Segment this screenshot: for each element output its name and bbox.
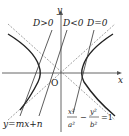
minus-sign: − xyxy=(80,113,87,122)
x-axis-label: x xyxy=(118,75,123,85)
origin-label: O xyxy=(51,78,58,88)
hyperbola-right-branch xyxy=(82,34,115,116)
y-axis-label: y xyxy=(56,5,63,15)
label-d-equal-0: D=0 xyxy=(86,18,108,28)
equals-one: =1 xyxy=(101,113,113,122)
diagram-canvas: y x O D>0 D<0 D=0 y=mx+n x² a² − y² b² =… xyxy=(0,0,129,136)
line-equation: y=mx+n xyxy=(2,119,43,129)
frac1-numerator: x² xyxy=(68,108,75,116)
frac2-denominator: b² xyxy=(90,121,97,129)
line-d-equal-0 xyxy=(73,30,94,114)
label-d-greater-0: D>0 xyxy=(32,18,54,28)
frac2-numerator: y² xyxy=(89,108,97,116)
label-d-less-0: D<0 xyxy=(62,18,84,28)
hyperbola-left-branch xyxy=(8,34,40,110)
hyperbola-line-diagram: y x O D>0 D<0 D=0 y=mx+n x² a² − y² b² =… xyxy=(0,0,129,136)
hyperbola-equation: x² a² − y² b² =1 xyxy=(67,108,113,129)
frac1-denominator: a² xyxy=(68,121,75,129)
